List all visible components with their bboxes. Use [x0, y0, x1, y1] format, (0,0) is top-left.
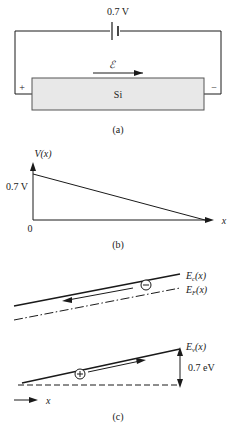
panel-b-potential-line	[33, 174, 205, 220]
electric-field-arrowhead-icon	[134, 70, 143, 76]
conduction-band-label: Ec(x)	[185, 270, 207, 282]
panel-b-potential-plot: V(x) x 0.7 V 0 (b)	[0, 145, 236, 257]
silicon-block-label: Si	[114, 89, 123, 100]
panel-b-y-axis-arrowhead-icon	[30, 162, 36, 171]
battery-voltage-label: 0.7 V	[107, 6, 130, 17]
conduction-band-line	[14, 274, 180, 306]
valence-band-line	[22, 349, 180, 383]
panel-b-caption: (b)	[112, 239, 124, 251]
panel-b-origin-label: 0	[28, 223, 33, 234]
valence-band-label: Ev(x)	[185, 341, 207, 353]
panel-c-x-axis-label: x	[45, 395, 51, 406]
electron-drift-arrowhead-icon	[62, 297, 72, 303]
terminal-positive-label: +	[19, 82, 25, 93]
panel-c-caption: (c)	[112, 411, 123, 423]
fermi-level-label: EF(x)	[185, 284, 208, 296]
fermi-level-line	[14, 288, 180, 320]
electric-field-symbol: ℰ	[109, 59, 116, 70]
panel-a-circuit: 0.7 V ℰ Si + − (a)	[0, 0, 236, 145]
hole-drift-arrowhead-icon	[136, 358, 146, 364]
band-gap-label: 0.7 eV	[188, 362, 215, 373]
panel-b-x-axis-arrowhead-icon	[205, 217, 214, 223]
band-gap-arrowhead-bottom-icon	[177, 379, 183, 388]
panel-b-y-axis-label: V(x)	[34, 148, 52, 160]
panel-b-x-axis-label: x	[221, 215, 227, 226]
band-gap-arrowhead-top-icon	[177, 347, 183, 356]
panel-c-x-axis-arrowhead-icon	[29, 397, 38, 403]
terminal-negative-label: −	[211, 82, 217, 93]
panel-a-caption: (a)	[112, 124, 123, 136]
panel-c-band-diagram: Ec(x) EF(x) Ev(x) 0.7 eV x (c)	[0, 257, 236, 426]
panel-b-value-label: 0.7 V	[6, 181, 29, 192]
